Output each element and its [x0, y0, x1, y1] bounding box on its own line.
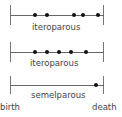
death-label: death: [92, 102, 117, 112]
reproduction-event-dot: [45, 13, 49, 17]
reproduction-event-dot: [45, 50, 49, 54]
lifespan-line: [10, 15, 104, 16]
reproduction-event-dot: [94, 83, 98, 87]
reproduction-event-dot: [33, 13, 37, 17]
row-label: semelparous: [31, 90, 85, 100]
birth-label: birth: [0, 102, 20, 112]
lifespan-line: [10, 85, 104, 86]
reproduction-event-dot: [81, 13, 85, 17]
reproduction-event-dot: [84, 50, 88, 54]
row-label: iteroparous: [30, 58, 78, 68]
row-label: iteroparous: [32, 22, 80, 32]
reproduction-event-dot: [69, 50, 73, 54]
reproduction-event-dot: [57, 50, 61, 54]
reproduction-event-dot: [33, 50, 37, 54]
reproduction-event-dot: [96, 13, 100, 17]
reproduction-event-dot: [72, 13, 76, 17]
